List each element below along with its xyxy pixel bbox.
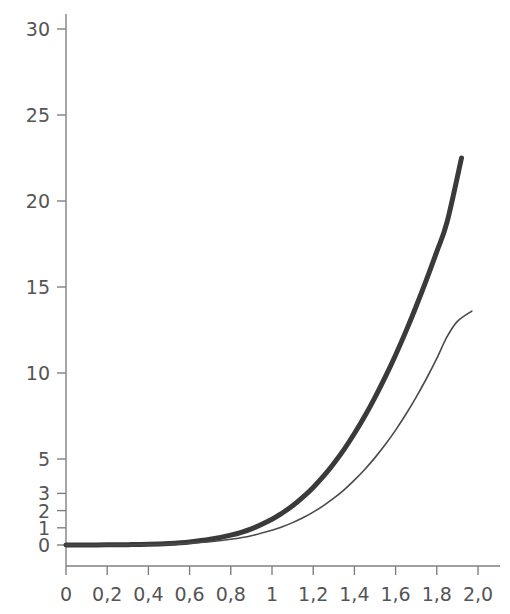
x-tick-label: 0,4 xyxy=(133,585,163,604)
y-tick-label: 0 xyxy=(0,536,50,555)
y-tick-label: 10 xyxy=(0,364,50,383)
x-tick-label: 2,0 xyxy=(463,585,493,604)
x-tick-label: 1,4 xyxy=(339,585,369,604)
x-axis-ticks xyxy=(66,566,478,575)
y-axis-ticks xyxy=(57,29,66,545)
y-tick-label: 25 xyxy=(0,106,50,125)
series-line-upper-curve xyxy=(66,158,462,545)
x-tick-label: 1,2 xyxy=(298,585,328,604)
x-tick-label: 0,6 xyxy=(174,585,204,604)
y-tick-label: 20 xyxy=(0,192,50,211)
y-tick-label: 2 xyxy=(0,501,50,520)
x-tick-label: 1,6 xyxy=(380,585,410,604)
axis-lines xyxy=(66,14,500,566)
x-tick-label: 0,8 xyxy=(216,585,246,604)
y-tick-label: 30 xyxy=(0,20,50,39)
x-tick-label: 1 xyxy=(266,585,278,604)
y-tick-label: 3 xyxy=(0,484,50,503)
series-line-lower-curve xyxy=(66,311,472,545)
y-tick-label: 1 xyxy=(0,518,50,537)
y-tick-label: 15 xyxy=(0,278,50,297)
plot-area xyxy=(0,0,510,614)
x-tick-label: 1,8 xyxy=(422,585,452,604)
x-tick-label: 0 xyxy=(60,585,72,604)
x-tick-label: 0,2 xyxy=(92,585,122,604)
chart-container: 012351015202530 00,20,40,60,811,21,41,61… xyxy=(0,0,510,614)
y-tick-label: 5 xyxy=(0,450,50,469)
data-series-group xyxy=(66,158,472,545)
